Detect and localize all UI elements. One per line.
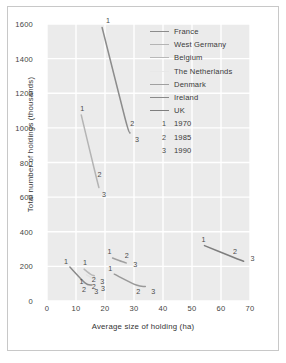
point-label: 1 <box>80 105 84 112</box>
series-line <box>204 246 243 262</box>
point-label: 1 <box>106 17 110 24</box>
legend-swatch-icon <box>150 44 169 45</box>
legend-swatch-icon <box>150 31 169 32</box>
y-axis-title: Total number of holdings (thousands) <box>26 45 35 245</box>
point-label: 3 <box>101 285 105 292</box>
legend-item-denmark[interactable]: Denmark <box>150 78 250 91</box>
legend-item-uk[interactable]: UK <box>150 104 250 117</box>
x-axis-title: Average size of holding (ha) <box>0 322 286 331</box>
x-tick-label: 70 <box>237 304 263 313</box>
legend-label: Denmark <box>174 80 206 89</box>
point-label: 2 <box>130 120 134 127</box>
point-label: 1 <box>79 278 83 285</box>
point-label: 1 <box>108 265 112 272</box>
legend-year-marker: 2 <box>150 133 169 142</box>
point-label: 2 <box>82 286 86 293</box>
legend-swatch-icon <box>150 97 169 98</box>
point-label: 2 <box>233 248 237 255</box>
legend-item-west-germany[interactable]: West Germany <box>150 38 250 51</box>
legend-label: Belgium <box>174 53 203 62</box>
series-line <box>81 115 99 188</box>
legend-swatch-icon <box>150 57 169 58</box>
legend-swatch-icon <box>150 110 169 111</box>
legend-item-france[interactable]: France <box>150 25 250 38</box>
x-tick-label: 20 <box>92 304 118 313</box>
x-tick-label: 30 <box>121 304 147 313</box>
point-label: 1 <box>108 248 112 255</box>
x-tick-label: 0 <box>34 304 60 313</box>
legend-year-marker: 3 <box>150 146 169 155</box>
point-label: 1 <box>83 259 87 266</box>
legend-label: UK <box>174 106 185 115</box>
legend-swatch-icon <box>150 84 169 85</box>
x-tick-label: 10 <box>63 304 89 313</box>
point-label: 3 <box>251 255 255 262</box>
y-tick-label: 1600 <box>0 20 33 29</box>
legend-year-marker: 1 <box>150 119 169 128</box>
legend-year-label: 1990 <box>174 146 192 155</box>
legend-item-year-1985: 21985 <box>150 131 250 144</box>
point-label: 1 <box>201 236 205 243</box>
point-label: 2 <box>136 288 140 295</box>
legend-label: West Germany <box>174 40 226 49</box>
series-line <box>114 274 145 286</box>
legend-item-year-1990: 31990 <box>150 144 250 157</box>
chart-figure: 02004006008001000120014001600 0102030405… <box>0 0 286 363</box>
legend-label: Ireland <box>174 93 198 102</box>
point-label: 3 <box>102 191 106 198</box>
x-tick-label: 50 <box>179 304 205 313</box>
legend-item-the-netherlands[interactable]: The Netherlands <box>150 65 250 78</box>
y-tick-label: 0 <box>0 297 33 306</box>
y-tick-label: 200 <box>0 262 33 271</box>
series-line <box>102 27 130 133</box>
point-label: 3 <box>135 136 139 143</box>
point-label: 3 <box>133 261 137 268</box>
chart-legend: FranceWest GermanyBelgiumThe Netherlands… <box>150 25 250 157</box>
legend-label: The Netherlands <box>174 67 232 76</box>
x-tick-label: 60 <box>208 304 234 313</box>
point-label: 3 <box>151 288 155 295</box>
legend-year-label: 1985 <box>174 133 192 142</box>
legend-swatch-icon <box>150 71 169 72</box>
legend-item-year-1970: 11970 <box>150 117 250 130</box>
legend-item-belgium[interactable]: Belgium <box>150 51 250 64</box>
legend-item-ireland[interactable]: Ireland <box>150 91 250 104</box>
point-label: 1 <box>64 258 68 265</box>
point-label: 2 <box>125 252 129 259</box>
legend-year-label: 1970 <box>174 119 192 128</box>
point-label: 3 <box>94 288 98 295</box>
point-label: 2 <box>98 171 102 178</box>
x-tick-label: 40 <box>150 304 176 313</box>
legend-label: France <box>174 27 199 36</box>
